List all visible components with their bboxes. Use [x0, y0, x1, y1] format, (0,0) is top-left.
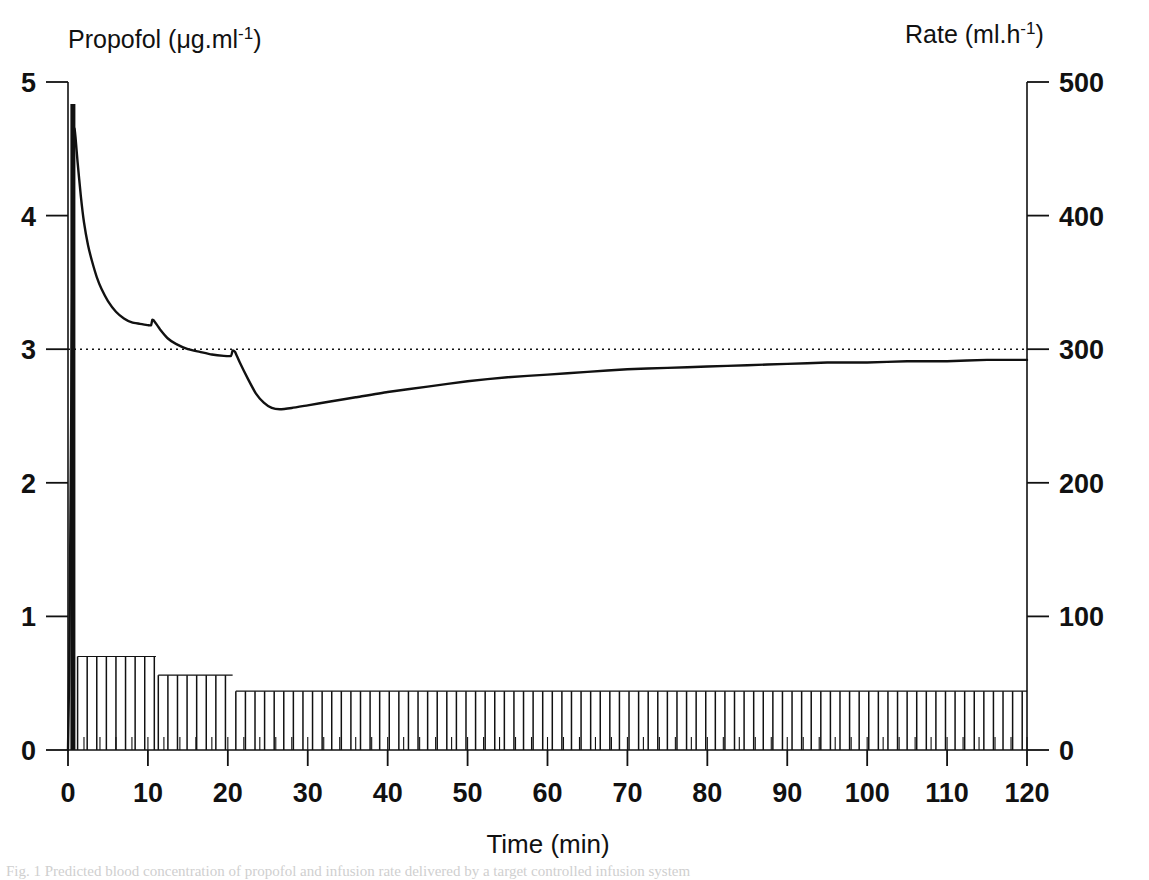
x-tick-label: 70: [612, 778, 642, 808]
x-tick-label: 90: [772, 778, 802, 808]
x-tick-label: 10: [133, 778, 163, 808]
left-tick-label: 4: [21, 202, 36, 232]
left-axis-title-exponent: -1: [238, 24, 253, 43]
left-tick-label: 2: [21, 469, 36, 499]
x-tick-label: 30: [293, 778, 323, 808]
propofol-tci-chart: Propofol (μg.ml-1) Rate (ml.h-1) 012345 …: [0, 0, 1149, 880]
x-tick-label: 120: [1004, 778, 1049, 808]
right-axis-title-close: ): [1035, 20, 1043, 48]
x-tick-label: 40: [373, 778, 403, 808]
left-axis-title: Propofol (μg.ml-1): [68, 24, 261, 53]
x-tick-label: 100: [845, 778, 890, 808]
left-axis-title-close: ): [253, 25, 261, 53]
left-tick-label: 5: [21, 68, 36, 98]
x-axis-label: Time (min): [486, 829, 609, 859]
figure-container: Propofol (μg.ml-1) Rate (ml.h-1) 012345 …: [0, 0, 1149, 880]
right-axis-title-exponent: -1: [1020, 19, 1035, 38]
x-tick-label: 110: [925, 778, 969, 808]
left-axis-title-unit: μg.ml: [176, 25, 238, 53]
x-tick-label: 20: [213, 778, 243, 808]
x-tick-label: 60: [532, 778, 562, 808]
right-tick-label: 400: [1059, 202, 1104, 232]
left-tick-label: 0: [21, 736, 36, 766]
left-tick-label: 3: [21, 335, 36, 365]
x-tick-label: 80: [692, 778, 722, 808]
left-tick-label: 1: [21, 602, 36, 632]
right-axis-title-main: Rate (ml.h: [905, 20, 1020, 48]
right-tick-label: 0: [1059, 736, 1074, 766]
left-axis-title-main: Propofol (: [68, 25, 177, 53]
right-tick-label: 200: [1059, 469, 1104, 499]
x-tick-label: 50: [453, 778, 483, 808]
right-tick-label: 300: [1059, 335, 1104, 365]
figure-footer-caption-strip: Fig. 1 Predicted blood concentration of …: [0, 862, 1149, 880]
x-tick-label: 0: [60, 778, 75, 808]
right-tick-label: 500: [1059, 68, 1104, 98]
x-axis-minor-ticks: [68, 737, 1027, 750]
chart-background: [0, 0, 1149, 880]
figure-footer-caption: Fig. 1 Predicted blood concentration of …: [0, 862, 1149, 880]
right-tick-label: 100: [1059, 602, 1104, 632]
